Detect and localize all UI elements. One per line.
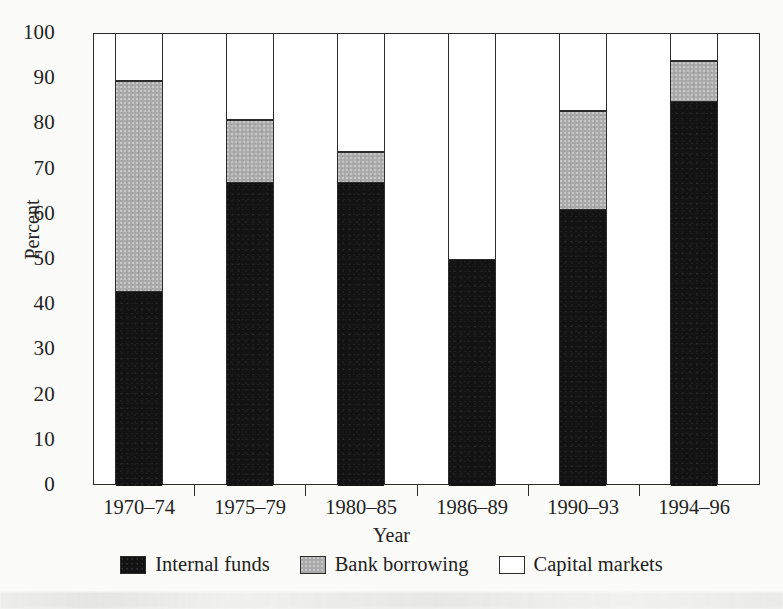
bar-1980–85 bbox=[337, 33, 385, 485]
bar-segment-internal-funds bbox=[116, 292, 162, 486]
bar-segment-capital-markets bbox=[449, 34, 495, 260]
y-axis-tick-label: 30 bbox=[9, 338, 55, 359]
bar-segment-internal-funds bbox=[560, 210, 606, 486]
bar-segment-capital-markets bbox=[227, 34, 273, 120]
x-axis-tick-label: 1975–79 bbox=[190, 496, 310, 519]
y-axis-tick-label: 50 bbox=[9, 248, 55, 269]
bar-segment-bank-borrowing bbox=[560, 111, 606, 210]
y-axis-tick-label: 100 bbox=[9, 22, 55, 43]
bar-1994–96 bbox=[670, 33, 718, 485]
bar-segment-internal-funds bbox=[227, 183, 273, 486]
scan-artifact bbox=[0, 592, 783, 609]
y-axis-tick-label: 10 bbox=[9, 429, 55, 450]
bar-1990–93 bbox=[559, 33, 607, 485]
bar-1975–79 bbox=[226, 33, 274, 485]
bar-1970–74 bbox=[115, 33, 163, 485]
bar-segment-bank-borrowing bbox=[227, 120, 273, 183]
bar-segment-capital-markets bbox=[560, 34, 606, 111]
bar-segment-internal-funds bbox=[671, 102, 717, 486]
legend-item: Bank borrowing bbox=[300, 553, 469, 576]
legend-swatch-bank-borrowing bbox=[300, 556, 326, 574]
figure-stacked-bar-chart: Percent 0102030405060708090100 1970–7419… bbox=[0, 0, 783, 609]
chart-legend: Internal fundsBank borrowingCapital mark… bbox=[0, 553, 783, 576]
x-axis-tick bbox=[639, 485, 640, 496]
legend-label: Bank borrowing bbox=[335, 553, 469, 576]
legend-item: Capital markets bbox=[499, 553, 663, 576]
x-axis-tick bbox=[305, 485, 306, 496]
y-axis-title: Percent bbox=[21, 170, 44, 290]
legend-label: Internal funds bbox=[155, 553, 269, 576]
legend-label: Capital markets bbox=[534, 553, 663, 576]
x-axis-tick-label: 1970–74 bbox=[79, 496, 199, 519]
legend-item: Internal funds bbox=[120, 553, 269, 576]
y-axis-tick-label: 90 bbox=[9, 67, 55, 88]
plot-area bbox=[93, 33, 760, 485]
bar-segment-capital-markets bbox=[671, 34, 717, 61]
x-axis-tick bbox=[194, 485, 195, 496]
x-axis-tick bbox=[417, 485, 418, 496]
y-axis-tick-label: 60 bbox=[9, 203, 55, 224]
x-axis-tick-label: 1980–85 bbox=[301, 496, 421, 519]
y-axis-tick-label: 70 bbox=[9, 158, 55, 179]
y-axis-tick-label: 0 bbox=[9, 474, 55, 495]
x-axis-tick-label: 1986–89 bbox=[412, 496, 532, 519]
x-axis-tick-label: 1994–96 bbox=[634, 496, 754, 519]
bar-segment-capital-markets bbox=[338, 34, 384, 152]
y-axis-tick-label: 80 bbox=[9, 112, 55, 133]
y-axis-tick-label: 40 bbox=[9, 293, 55, 314]
bar-1986–89 bbox=[448, 33, 496, 485]
x-axis-tick-label: 1990–93 bbox=[523, 496, 643, 519]
bar-segment-bank-borrowing bbox=[671, 61, 717, 102]
y-axis-tick-label: 20 bbox=[9, 384, 55, 405]
x-axis-title: Year bbox=[0, 524, 783, 547]
bar-segment-bank-borrowing bbox=[338, 152, 384, 184]
legend-swatch-internal-funds bbox=[120, 556, 146, 574]
bar-segment-internal-funds bbox=[449, 260, 495, 486]
bar-segment-capital-markets bbox=[116, 34, 162, 81]
bar-segment-bank-borrowing bbox=[116, 81, 162, 291]
bar-segment-internal-funds bbox=[338, 183, 384, 486]
legend-swatch-capital-markets bbox=[499, 556, 525, 574]
x-axis-tick bbox=[528, 485, 529, 496]
